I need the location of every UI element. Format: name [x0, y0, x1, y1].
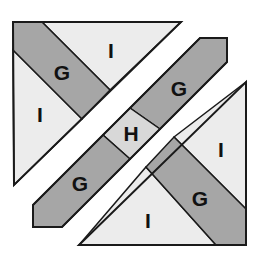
label-band-upper-g: G — [171, 77, 187, 100]
label-lr-bottom-i: I — [145, 209, 151, 232]
label-band-h: H — [123, 122, 138, 145]
quilt-block-diagram: I G I G H G I G I — [0, 0, 265, 257]
label-lr-g: G — [192, 187, 208, 210]
label-lr-right-i: I — [218, 138, 224, 161]
label-ul-top-i: I — [108, 39, 114, 62]
label-ul-left-i: I — [37, 103, 43, 126]
diagram-canvas: I G I G H G I G I — [0, 0, 265, 257]
label-band-lower-g: G — [72, 172, 88, 195]
label-ul-g: G — [54, 61, 70, 84]
